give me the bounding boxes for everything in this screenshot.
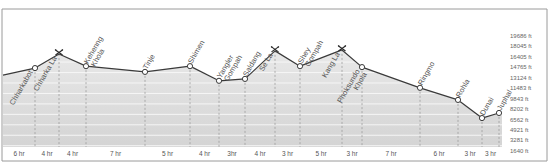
segment-duration-label: 3 hr [346,150,358,157]
y-tick-label: 14765 ft [510,64,532,70]
segment-duration-label: 7 hr [110,150,122,157]
y-tick-label: 19686 ft [510,33,532,39]
segment-duration-label: 4 hr [41,150,53,157]
segment-duration-label: 6 hr [13,150,25,157]
waypoint-label: Dunai [478,95,496,117]
y-tick-label: 18045 ft [510,43,532,49]
segment-duration-label: 3 hr [464,150,476,157]
y-tick-label: 1640 ft [510,148,529,154]
segment-duration-label: 3hr [227,150,237,157]
segment-duration-label: 5 hr [315,150,327,157]
segment-duration-label: 5 hr [162,150,174,157]
segment-duration-label: 4 hr [254,150,266,157]
y-tick-label: 9843 ft [510,96,529,102]
segment-duration-label: 4 hr [199,150,211,157]
waypoint-label: Tinje [141,53,157,71]
segment-duration-labels: 6 hr4 hr4 hr7 hr5 hr4 hr3hr4 hr3 hr5 hr3… [13,150,497,157]
y-tick-label: 4921 ft [510,127,529,133]
y-tick-label: 3281 ft [510,137,529,143]
waypoint-label: Shimen [186,39,207,66]
segment-duration-label: 3 hr [282,150,294,157]
waypoint-label: Rohla [454,77,472,99]
y-tick-label: 8202 ft [510,106,529,112]
elevation-profile-chart: ChharkabotChharka LaKehenngKholaTinjeShi… [0,0,549,166]
y-tick-label: 6562 ft [510,117,529,123]
profile-area [3,9,502,156]
village-marker [32,65,37,70]
waypoint-label: Ringmo [416,60,437,87]
segment-duration-label: 4 hr [67,150,79,157]
y-tick-label: 13124 ft [510,75,532,81]
y-tick-label: 16405 ft [510,54,532,60]
village-marker [359,65,364,70]
segment-duration-label: 3 hr [485,150,497,157]
y-tick-label: 11483 ft [510,85,532,91]
segment-duration-label: 7 hr [385,150,397,157]
segment-duration-label: 6 hr [433,150,445,157]
